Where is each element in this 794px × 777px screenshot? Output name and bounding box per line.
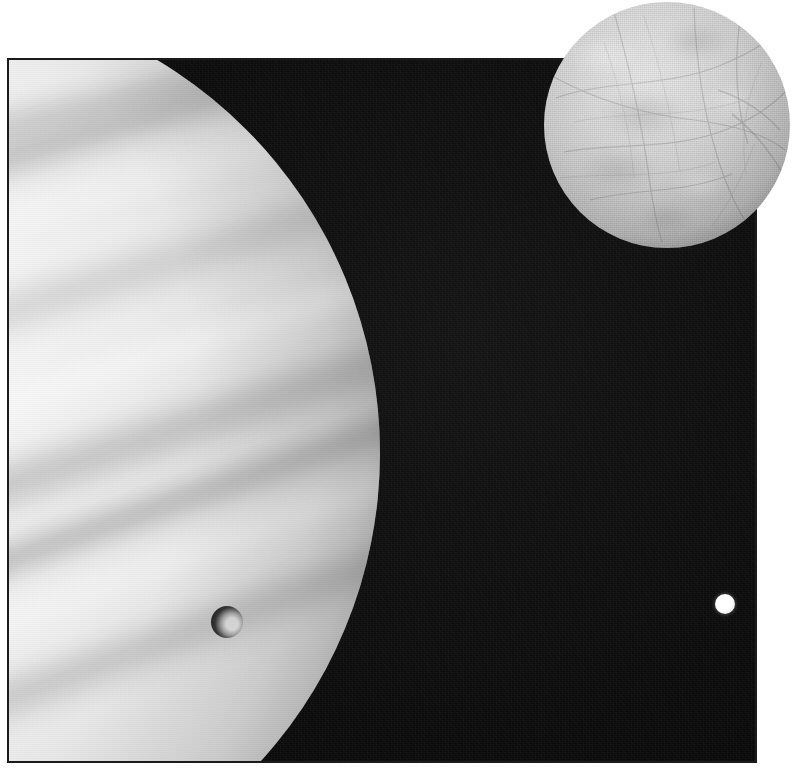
small-bright-moon [715,594,735,614]
large-icy-moon [544,2,790,248]
icy-moon-limb-darkening [544,2,790,248]
image-canvas [0,0,794,777]
moon-shadow-transit [211,606,243,638]
